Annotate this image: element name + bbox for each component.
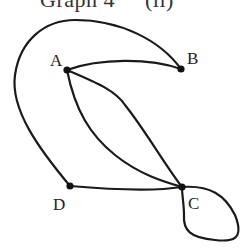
node-b — [177, 65, 184, 72]
node-a — [63, 66, 70, 73]
node-d — [66, 182, 73, 189]
node-label-c: C — [188, 194, 199, 213]
edge-a-c-upper — [67, 70, 182, 187]
edge-d-c — [70, 186, 182, 190]
node-label-d: D — [53, 195, 65, 214]
node-label-a: A — [50, 51, 63, 70]
edge-b-d-outer — [14, 20, 181, 186]
graph-diagram: A B C D — [0, 0, 245, 249]
node-label-b: B — [187, 49, 198, 68]
edge-a-b — [67, 61, 181, 70]
edge-a-c-lower — [67, 70, 182, 187]
node-c — [178, 183, 185, 190]
